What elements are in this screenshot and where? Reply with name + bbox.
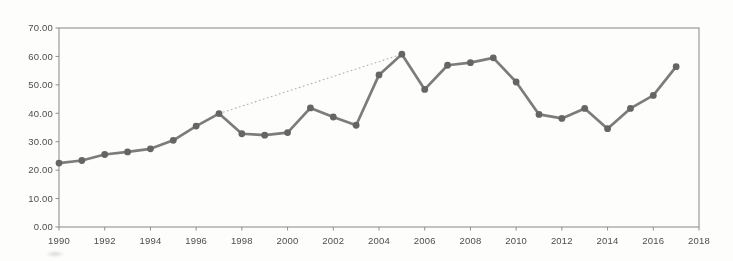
data-point-marker — [56, 160, 63, 167]
data-point-marker — [353, 122, 360, 129]
data-point-marker — [170, 137, 177, 144]
x-axis-label: 2002 — [322, 235, 344, 246]
plot-frame — [59, 28, 699, 227]
data-point-marker — [421, 86, 428, 93]
x-axis-label: 1994 — [139, 235, 161, 246]
data-point-marker — [398, 51, 405, 58]
x-axis-label: 2010 — [505, 235, 527, 246]
data-point-marker — [307, 104, 314, 111]
y-axis-label: 60.00 — [28, 51, 53, 62]
data-point-marker — [558, 115, 565, 122]
data-point-marker — [513, 79, 520, 86]
data-point-marker — [376, 72, 383, 79]
x-axis-label: 1998 — [231, 235, 253, 246]
data-point-marker — [604, 125, 611, 132]
scanned-page: 0.0010.0020.0030.0040.0050.0060.0070.001… — [0, 0, 733, 261]
y-axis-label: 0.00 — [34, 221, 53, 232]
data-point-marker — [444, 62, 451, 69]
data-point-marker — [124, 149, 131, 156]
data-point-marker — [78, 157, 85, 164]
data-point-marker — [284, 129, 291, 136]
x-axis-label: 2008 — [459, 235, 481, 246]
line-chart: 0.0010.0020.0030.0040.0050.0060.0070.001… — [0, 0, 733, 261]
y-axis-label: 30.00 — [28, 136, 53, 147]
data-point-marker — [261, 132, 268, 139]
x-axis-label: 1996 — [185, 235, 207, 246]
x-axis-label: 2012 — [551, 235, 573, 246]
y-axis-label: 10.00 — [28, 193, 53, 204]
data-point-marker — [467, 59, 474, 66]
line-chart-figure: 0.0010.0020.0030.0040.0050.0060.0070.001… — [0, 0, 733, 261]
y-axis-label: 50.00 — [28, 79, 53, 90]
y-axis-label: 40.00 — [28, 108, 53, 119]
data-point-marker — [581, 105, 588, 112]
x-axis-label: 2004 — [368, 235, 390, 246]
data-point-marker — [673, 63, 680, 70]
y-axis-label: 20.00 — [28, 164, 53, 175]
data-point-marker — [536, 111, 543, 118]
data-point-marker — [330, 114, 337, 121]
x-axis-label: 2000 — [277, 235, 299, 246]
x-axis-label: 2006 — [414, 235, 436, 246]
data-point-marker — [650, 92, 657, 99]
x-axis-label: 2016 — [642, 235, 664, 246]
scan-smudge-artifact — [45, 251, 65, 257]
data-point-marker — [193, 123, 200, 130]
data-point-marker — [101, 151, 108, 158]
x-axis-label: 2018 — [688, 235, 710, 246]
y-axis-label: 70.00 — [28, 22, 53, 33]
data-point-marker — [627, 105, 634, 112]
data-point-marker — [147, 145, 154, 152]
data-point-marker — [490, 54, 497, 61]
data-point-marker — [216, 110, 223, 117]
x-axis-label: 1992 — [94, 235, 116, 246]
x-axis-label: 1990 — [48, 235, 70, 246]
x-axis-label: 2014 — [597, 235, 619, 246]
data-point-marker — [238, 130, 245, 137]
